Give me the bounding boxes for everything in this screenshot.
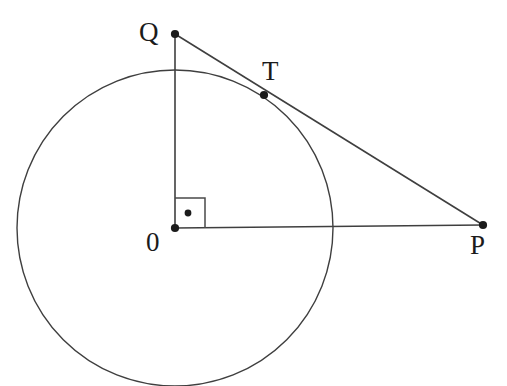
point-Q-dot-icon <box>171 30 179 38</box>
point-label-P: P <box>470 232 485 259</box>
diagram-canvas: Q T P 0 <box>0 0 507 386</box>
point-P-dot-icon <box>479 221 487 229</box>
point-O-dot-icon <box>171 224 179 232</box>
right-angle-dot-icon <box>185 210 192 217</box>
segment-QP <box>175 34 483 225</box>
geometry-figure <box>0 0 507 386</box>
point-label-O: 0 <box>146 229 160 256</box>
segment-OP <box>175 225 483 228</box>
point-label-Q: Q <box>139 19 159 46</box>
point-T-dot-icon <box>260 91 268 99</box>
point-label-T: T <box>262 58 279 85</box>
